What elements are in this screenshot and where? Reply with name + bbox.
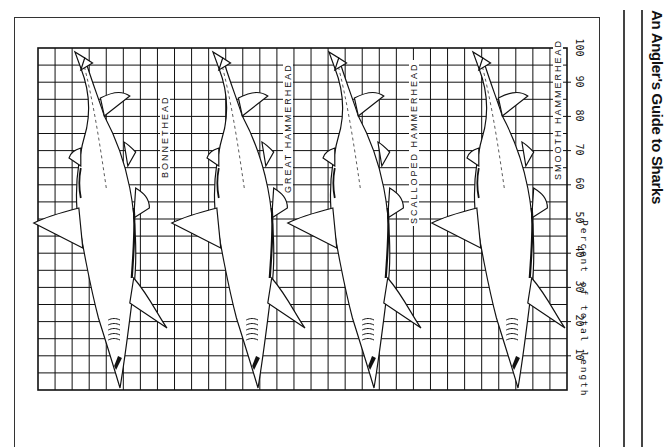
species-label-smooth-hammerhead: SMOOTH HAMMERHEAD bbox=[553, 37, 563, 182]
species-label-great-hammerhead: GREAT HAMMERHEAD bbox=[283, 61, 293, 195]
axis-tick: 80 bbox=[574, 105, 585, 127]
axis-label: Percent of total length bbox=[579, 220, 590, 420]
axis-tick: 60 bbox=[574, 173, 585, 195]
species-label-bonnethead: BONNETHEAD bbox=[160, 93, 170, 180]
shark-bonnethead bbox=[34, 52, 167, 388]
shark-grid-figure bbox=[0, 0, 670, 447]
axis-tick: 90 bbox=[574, 71, 585, 93]
shark-scalloped-hammerhead bbox=[288, 52, 421, 388]
species-label-scalloped-hammerhead: SCALLOPED HAMMERHEAD bbox=[409, 60, 419, 226]
axis-tick: 70 bbox=[574, 139, 585, 161]
axis-tick: 100 bbox=[574, 37, 585, 59]
